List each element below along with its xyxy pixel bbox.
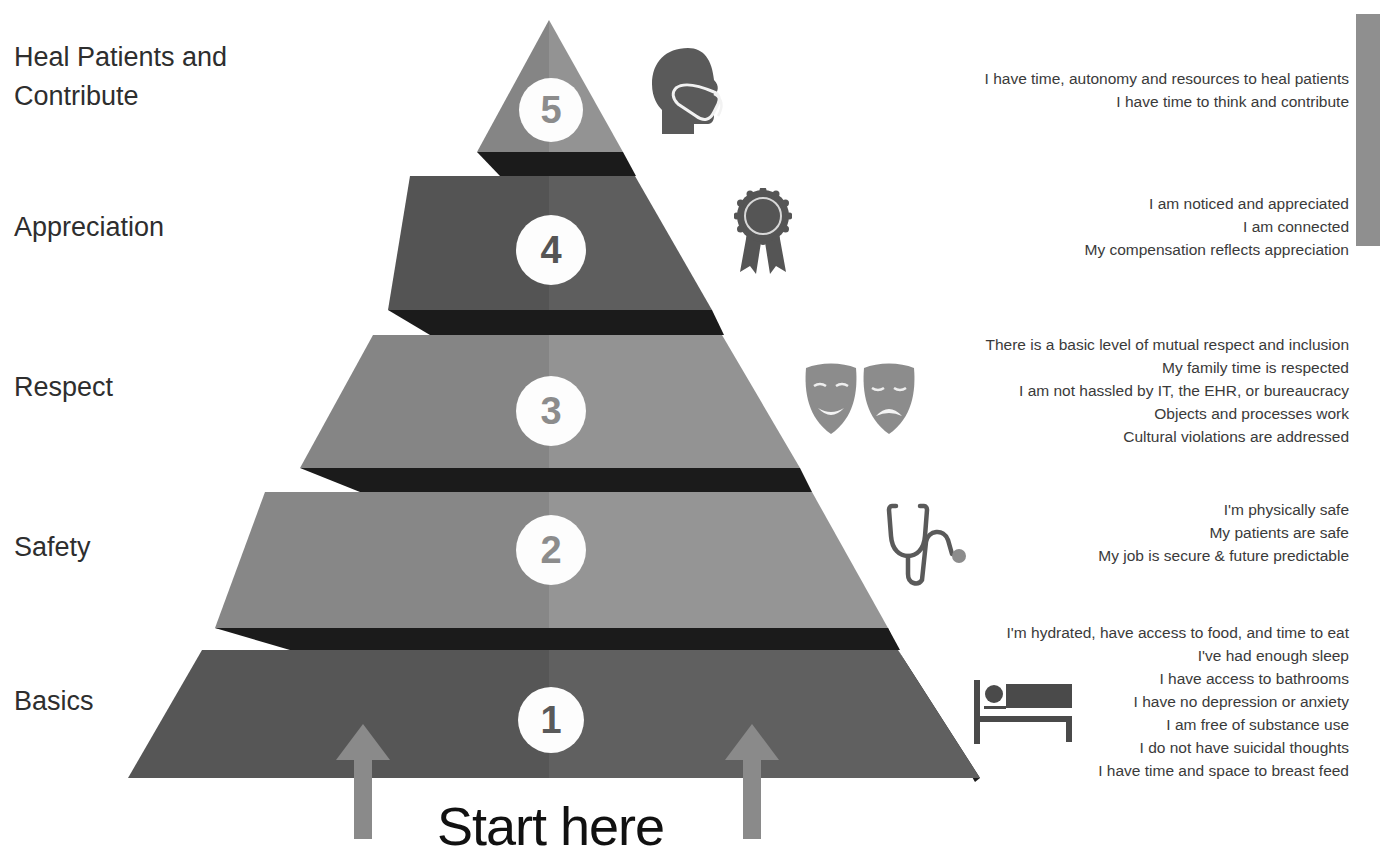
description-line: I have time, autonomy and resources to h… [985, 67, 1349, 90]
level-1-descriptions: I'm hydrated, have access to food, and t… [1007, 621, 1349, 782]
description-line: I've had enough sleep [1007, 644, 1349, 667]
tier-2-shadow [300, 468, 812, 492]
description-line: My patients are safe [1098, 521, 1349, 544]
tier-3-shadow [388, 310, 724, 335]
level-number-2: 2 [516, 515, 586, 585]
description-line: Cultural violations are addressed [985, 425, 1349, 448]
description-line: There is a basic level of mutual respect… [985, 333, 1349, 356]
masked-head-icon [648, 46, 728, 136]
description-line: I'm hydrated, have access to food, and t… [1007, 621, 1349, 644]
description-line: I'm physically safe [1098, 498, 1349, 521]
tier-2 [215, 492, 549, 628]
description-line: My family time is respected [985, 356, 1349, 379]
level-2-descriptions: I'm physically safe My patients are safe… [1098, 498, 1349, 567]
description-line: I have access to bathrooms [1007, 667, 1349, 690]
level-number-1: 1 [518, 687, 584, 753]
tier-3 [300, 335, 549, 468]
description-line: I am noticed and appreciated [1085, 192, 1350, 215]
edge-bar-decoration [1356, 14, 1380, 246]
level-number-3: 3 [516, 376, 586, 446]
description-line: I am free of substance use [1007, 713, 1349, 736]
level-number-5: 5 [519, 78, 583, 142]
description-line: I do not have suicidal thoughts [1007, 736, 1349, 759]
description-line: I have time and space to breast feed [1007, 759, 1349, 782]
description-line: I have time to think and contribute [985, 90, 1349, 113]
description-line: I am not hassled by IT, the EHR, or bure… [985, 379, 1349, 402]
description-line: My compensation reflects appreciation [1085, 238, 1350, 261]
award-ribbon-icon [734, 188, 792, 276]
description-line: I am connected [1085, 215, 1350, 238]
tier-4-shadow [477, 152, 636, 176]
description-line: I have no depression or anxiety [1007, 690, 1349, 713]
theater-masks-icon [802, 362, 920, 436]
stethoscope-icon [886, 502, 970, 590]
level-5-descriptions: I have time, autonomy and resources to h… [985, 67, 1349, 113]
level-4-descriptions: I am noticed and appreciated I am connec… [1085, 192, 1350, 261]
level-3-descriptions: There is a basic level of mutual respect… [985, 333, 1349, 448]
description-line: My job is secure & future predictable [1098, 544, 1349, 567]
start-here-label: Start here [437, 796, 664, 854]
level-number-4: 4 [516, 215, 586, 285]
description-line: Objects and processes work [985, 402, 1349, 425]
